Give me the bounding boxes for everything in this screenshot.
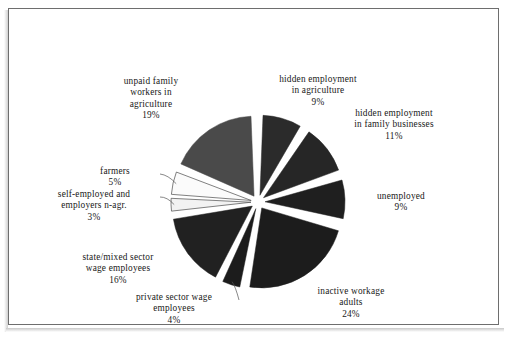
pie-label-value-self-employed-and-employers-nagr: 3% xyxy=(32,212,156,223)
figure-page: hidden employment in agriculture9%hidden… xyxy=(0,0,512,340)
pie-label-text-inactive-workage-adults: inactive workage adults xyxy=(318,286,385,307)
pie-label-text-hidden-employment-family-businesses: hidden employment in family businesses xyxy=(354,108,433,129)
pie-label-text-state-mixed-sector-wage-employees: state/mixed sector wage employees xyxy=(83,252,154,273)
pie-label-hidden-employment-family-businesses: hidden employment in family businesses11… xyxy=(333,108,455,142)
pie-label-unemployed: unemployed9% xyxy=(358,191,444,214)
pie-label-unpaid-family-workers-agriculture: unpaid family workers in agriculture19% xyxy=(98,76,204,122)
pie-label-text-private-sector-wage-employees: private sector wage employees xyxy=(136,292,212,313)
pie-slice-group xyxy=(171,115,345,288)
pie-label-text-unpaid-family-workers-agriculture: unpaid family workers in agriculture xyxy=(124,76,179,109)
pie-label-value-hidden-employment-family-businesses: 11% xyxy=(333,131,455,142)
pie-label-value-private-sector-wage-employees: 4% xyxy=(113,315,235,326)
pie-label-self-employed-and-employers-nagr: self-employed and employers n-agr.3% xyxy=(32,189,156,223)
pie-label-value-farmers: 5% xyxy=(74,177,156,188)
pie-label-text-hidden-employment-agriculture: hidden employment in agriculture xyxy=(279,74,357,95)
pie-label-text-unemployed: unemployed xyxy=(377,191,425,201)
pie-label-value-state-mixed-sector-wage-employees: 16% xyxy=(56,275,180,286)
pie-label-hidden-employment-agriculture: hidden employment in agriculture9% xyxy=(262,74,374,108)
pie-label-farmers: farmers5% xyxy=(74,166,156,189)
pie-label-value-hidden-employment-agriculture: 9% xyxy=(262,97,374,108)
pie-label-state-mixed-sector-wage-employees: state/mixed sector wage employees16% xyxy=(56,252,180,286)
pie-label-value-unemployed: 9% xyxy=(358,202,444,213)
pie-label-text-self-employed-and-employers-nagr: self-employed and employers n-agr. xyxy=(58,189,130,210)
pie-label-value-inactive-workage-adults: 24% xyxy=(298,309,404,320)
pie-label-text-farmers: farmers xyxy=(100,166,130,176)
pie-slice-inactive-workage-adults xyxy=(250,208,339,288)
pie-label-inactive-workage-adults: inactive workage adults24% xyxy=(298,286,404,320)
pie-label-private-sector-wage-employees: private sector wage employees4% xyxy=(113,292,235,326)
pie-label-value-unpaid-family-workers-agriculture: 19% xyxy=(98,110,204,121)
